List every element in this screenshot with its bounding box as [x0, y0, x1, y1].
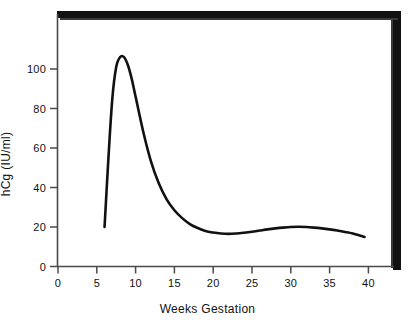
- hcg-data-curve: [105, 56, 365, 237]
- x-axis-title: Weeks Gestation: [0, 302, 415, 316]
- x-axis-ticks: [58, 267, 368, 274]
- hcg-gestation-chart: 0 20 40 60 80 100 0 5 10 15 20 25 30 35 …: [0, 0, 415, 328]
- x-tick-label-5: 5: [94, 277, 100, 289]
- x-tick-label-10: 10: [129, 277, 142, 289]
- y-tick-label-40: 40: [24, 182, 46, 194]
- x-tick-label-40: 40: [362, 277, 375, 289]
- x-tick-label-0: 0: [55, 277, 61, 289]
- y-tick-label-100: 100: [24, 63, 46, 75]
- x-tick-label-20: 20: [207, 277, 220, 289]
- x-tick-label-35: 35: [323, 277, 336, 289]
- y-axis-title: hCg (IU/ml): [0, 132, 13, 197]
- y-tick-label-0: 0: [24, 261, 46, 273]
- y-tick-label-60: 60: [24, 142, 46, 154]
- x-tick-label-30: 30: [284, 277, 297, 289]
- y-tick-label-20: 20: [24, 221, 46, 233]
- y-tick-label-80: 80: [24, 103, 46, 115]
- x-tick-label-15: 15: [168, 277, 181, 289]
- y-axis-ticks: [50, 69, 57, 267]
- x-tick-label-25: 25: [246, 277, 259, 289]
